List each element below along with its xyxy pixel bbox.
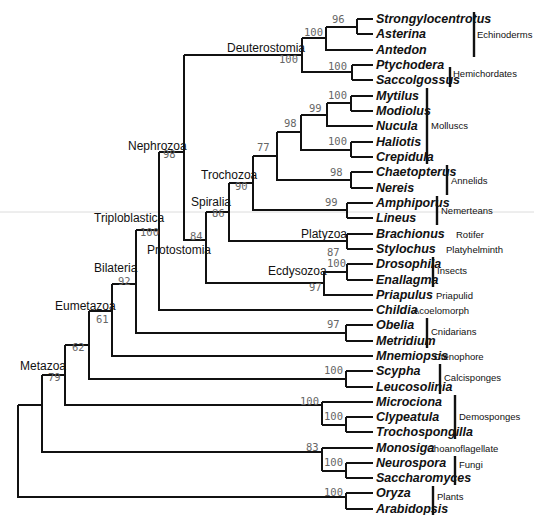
group-label-choanoflagellate: Choanoflagellate (427, 443, 498, 454)
leaf-label: Brachionus (376, 227, 445, 241)
bootstrap-value: 100 (328, 60, 347, 72)
leaf-label: Saccolgossus (376, 73, 460, 87)
bootstrap-value: 100 (324, 410, 343, 422)
group-label-acoelomorph: Acoelomorph (413, 305, 469, 316)
bootstrap-value: 84 (190, 230, 203, 242)
leaf-label: Oryza (376, 486, 411, 500)
leaf-label: Mytilus (376, 89, 419, 103)
leaf-label: Enallagma (376, 273, 439, 287)
bootstrap-value: 90 (235, 180, 248, 192)
leaf-label: Stylochus (376, 242, 436, 256)
bootstrap-value: 100 (324, 456, 343, 468)
group-label-ctenophore: Ctenophore (434, 351, 484, 362)
group-label-nemerteans: Nemerteans (441, 205, 493, 216)
leaf-label: Arabidopsis (375, 502, 448, 515)
leaf-label: Lineus (376, 211, 416, 225)
leaf-label: Haliotis (376, 135, 421, 149)
leaf-label: Microciona (376, 395, 442, 409)
group-label-insects: Insects (437, 265, 467, 276)
bootstrap-value: 97 (309, 281, 322, 293)
clade-label-triploblastica: Triploblastica (94, 211, 165, 225)
bootstrap-value: 99 (309, 102, 322, 114)
bootstrap-value: 97 (327, 318, 340, 330)
leaf-label: Scypha (376, 364, 421, 378)
group-label-echinoderms: Echinoderms (477, 29, 533, 40)
group-brackets: Echinoderms Hemichordates Molluscs Annel… (427, 12, 533, 515)
group-label-platyhelminth: Platyhelminth (446, 244, 503, 255)
bootstrap-value: 100 (328, 89, 347, 101)
leaf-label: Nereis (376, 181, 414, 195)
bootstrap-value: 83 (306, 441, 319, 453)
leaf-label: Modiolus (376, 104, 431, 118)
group-label-molluscs: Molluscs (431, 120, 468, 131)
leaf-label: Ptychodera (376, 58, 444, 72)
leaf-label: Chaetopterus (376, 165, 457, 179)
bootstrap-value: 100 (304, 26, 323, 38)
bootstrap-value: 100 (324, 486, 343, 498)
bootstrap-value: 100 (324, 364, 343, 376)
leaf-label: Amphiporus (375, 196, 450, 210)
clade-label-ecdysozoa: Ecdysozoa (268, 264, 327, 278)
clade-label-trochozoa: Trochozoa (201, 168, 258, 182)
leaf-label: Drosophila (376, 257, 441, 271)
bootstrap-value: 61 (96, 313, 109, 325)
group-label-annelids: Annelids (451, 175, 488, 186)
group-label-cnidarians: Cnidarians (431, 326, 477, 337)
bootstrap-value: 100 (327, 257, 346, 269)
bootstrap-value: 92 (118, 275, 131, 287)
bootstrap-value: 77 (257, 141, 270, 153)
group-label-rotifer: Rotifer (456, 229, 484, 240)
bootstrap-value: 100 (279, 53, 298, 65)
clade-label-eumetazoa: Eumetazoa (55, 299, 116, 313)
leaf-label: Nucula (376, 119, 418, 133)
bootstrap-value: 96 (332, 13, 345, 25)
bootstrap-value: 100 (300, 395, 319, 407)
phylogenetic-tree: Strongylocentrotus Asterina Antedon Ptyc… (0, 0, 534, 515)
leaf-label: Obelia (376, 318, 414, 332)
leaf-label: Antedon (375, 43, 427, 57)
group-label-hemichordates: Hemichordates (453, 68, 517, 79)
bootstrap-value: 100 (328, 135, 347, 147)
leaf-label: Childia (376, 303, 418, 317)
leaf-label: Clypeatula (376, 410, 439, 424)
leaf-label: Neurospora (376, 456, 446, 470)
leaf-label: Monosiga (376, 441, 434, 455)
leaf-label: Crepidula (376, 150, 434, 164)
group-label-priapulid: Priapulid (436, 290, 473, 301)
leaf-label: Priapulus (376, 288, 433, 302)
clade-label-protostomia: Protostomia (147, 243, 211, 257)
clade-label-nephrozoa: Nephrozoa (128, 139, 187, 153)
bootstrap-value: 100 (140, 226, 159, 238)
group-label-calcisponges: Calcisponges (444, 372, 501, 383)
bootstrap-value: 62 (72, 341, 85, 353)
group-label-plants: Plants (437, 491, 464, 502)
bootstrap-value: 98 (284, 117, 297, 129)
bootstrap-value: 79 (48, 371, 61, 383)
leaf-label: Saccharomyces (376, 471, 471, 485)
leaf-label: Trochospongilla (376, 425, 473, 439)
clade-label-platyzoa: Platyzoa (301, 227, 347, 241)
clade-label-bilateria: Bilateria (94, 261, 138, 275)
leaf-label: Asterina (375, 27, 426, 41)
group-label-fungi: Fungi (459, 459, 483, 470)
bootstrap-value: 99 (325, 196, 338, 208)
group-label-demosponges: Demosponges (459, 411, 521, 422)
bootstrap-value: 86 (212, 207, 225, 219)
bootstrap-value: 98 (330, 166, 343, 178)
bootstrap-value: 98 (163, 148, 176, 160)
